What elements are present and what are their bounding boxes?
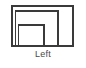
figure-caption: Left xyxy=(0,49,86,60)
figure-thumbnail: Left xyxy=(0,0,86,68)
outer-frame-rect xyxy=(12,6,73,46)
spiral-arm-outer-path xyxy=(16,11,59,46)
spiral-arm-inner-path xyxy=(19,25,45,46)
